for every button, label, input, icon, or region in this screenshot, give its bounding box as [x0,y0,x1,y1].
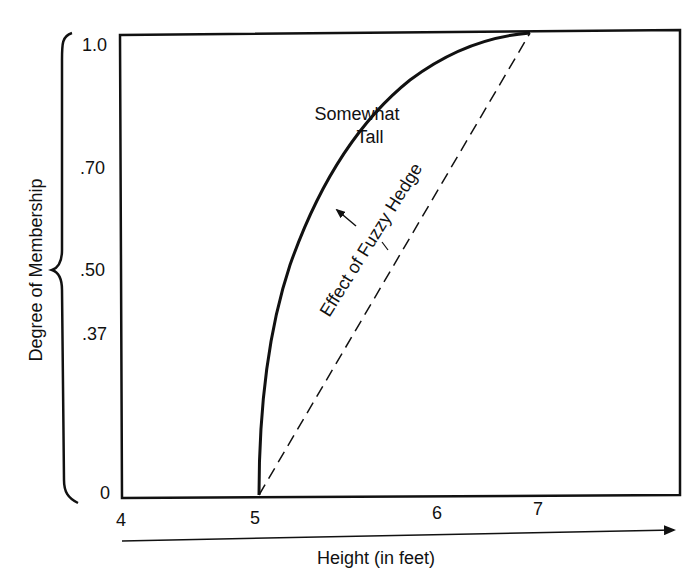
x-axis-arrow [122,530,674,541]
y-tick-1-0: 1.0 [82,35,107,55]
y-axis-label: Degree of Membership [26,178,46,361]
y-tick-0-70: .70 [80,158,105,178]
hedge-tick-mark [382,242,388,250]
x-tick-7: 7 [533,499,543,519]
hedge-effect-arrow [337,210,356,226]
x-tick-4: 4 [116,510,126,530]
y-tick-0-37: .37 [82,324,107,344]
x-axis-label: Height (in feet) [317,548,435,568]
y-tick-0-50: .50 [80,260,105,280]
hedge-annotation: Effect of Fuzzy Hedge [316,160,427,321]
fuzzy-hedge-chart: 1.0 .70 .50 .37 0 Degree of Membership 4… [0,0,698,586]
x-tick-6: 6 [432,503,442,523]
curve-label-line2: Tall [356,127,383,147]
plot-frame [120,30,680,498]
curve-label-line1: Somewhat [314,104,399,124]
y-tick-0: 0 [100,483,110,503]
y-axis-brace [52,33,78,503]
linear-membership-line [259,33,530,495]
x-tick-5: 5 [250,508,260,528]
